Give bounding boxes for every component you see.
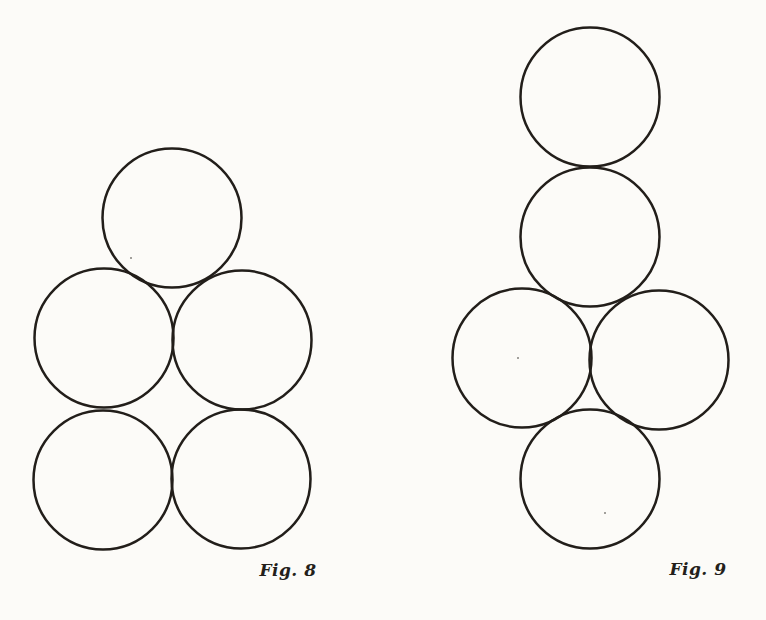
fig9-circle bbox=[521, 168, 660, 307]
fig9-circle bbox=[590, 291, 729, 430]
figure-8-caption: Fig. 8 bbox=[243, 560, 333, 580]
fig8-circle bbox=[35, 269, 174, 408]
scan-speck bbox=[604, 512, 606, 514]
scan-speck bbox=[130, 257, 132, 259]
fig9-circle bbox=[521, 410, 660, 549]
fig8-circle bbox=[173, 271, 312, 410]
fig9-circle bbox=[521, 28, 660, 167]
fig9-circle bbox=[453, 289, 592, 428]
scanned-page: Fig. 8 Fig. 9 bbox=[0, 0, 766, 620]
figure-8-circle-group bbox=[34, 149, 312, 550]
scan-speck bbox=[517, 357, 519, 359]
figure-9-caption: Fig. 9 bbox=[653, 559, 743, 579]
fig8-circle bbox=[34, 411, 173, 550]
fig8-circle bbox=[172, 410, 311, 549]
figure-9-circle-group bbox=[453, 28, 729, 549]
circle-figures-drawing bbox=[0, 0, 766, 620]
scan-noise-specks bbox=[130, 257, 606, 514]
fig8-circle bbox=[103, 149, 242, 288]
